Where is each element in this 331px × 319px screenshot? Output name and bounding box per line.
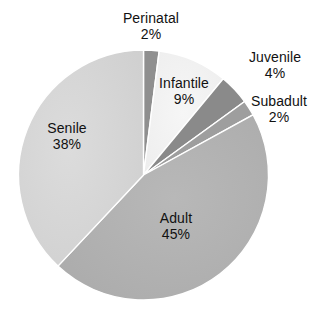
slice-label-juvenile-name: Juvenile [221,50,329,66]
slice-label-senile: Senile 38% [23,121,111,152]
slice-label-perinatal: Perinatal 2% [96,11,206,42]
slice-label-subadult: Subadult 2% [228,94,330,125]
slice-label-adult-value: 45% [133,227,219,243]
slice-label-perinatal-value: 2% [96,27,206,43]
pie-chart: Perinatal 2% Juvenile 4% Subadult 2% Inf… [0,0,331,319]
slice-label-adult-name: Adult [133,211,219,227]
pie-chart-canvas [0,0,331,319]
slice-label-senile-name: Senile [23,121,111,137]
slice-label-infantile-value: 9% [140,92,228,108]
slice-label-senile-value: 38% [23,137,111,153]
slice-label-subadult-name: Subadult [228,94,330,110]
slice-label-perinatal-name: Perinatal [96,11,206,27]
slice-label-infantile-name: Infantile [140,76,228,92]
slice-label-juvenile: Juvenile 4% [221,50,329,81]
slice-label-juvenile-value: 4% [221,66,329,82]
slice-label-subadult-value: 2% [228,110,330,126]
slice-label-adult: Adult 45% [133,211,219,242]
slice-label-infantile: Infantile 9% [140,76,228,107]
